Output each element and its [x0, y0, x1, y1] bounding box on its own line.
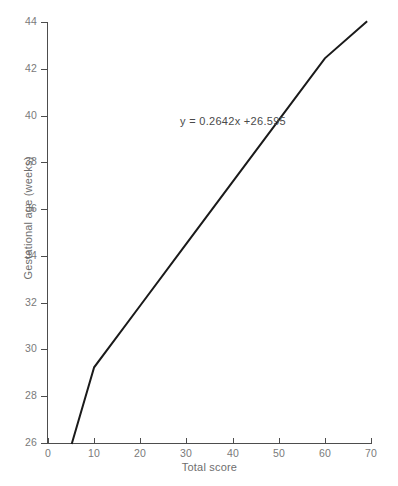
regression-line-path: [72, 22, 366, 443]
y-axis-tick: [41, 349, 47, 350]
y-axis-tick: [41, 209, 47, 210]
x-axis-tick-label: 60: [305, 447, 345, 459]
y-axis-tick: [41, 22, 47, 23]
plot-area: [48, 22, 371, 443]
regression-equation-label: y = 0.2642x +26.595: [180, 115, 286, 127]
regression-line-svg: [48, 22, 371, 443]
x-axis-title: Total score: [48, 461, 371, 473]
y-axis-title: Gestational age (weeks): [22, 118, 34, 318]
x-axis-tick-label: 40: [213, 447, 253, 459]
y-axis-tick: [41, 69, 47, 70]
y-axis-tick-label: 28: [0, 389, 37, 401]
y-axis-tick-label: 42: [0, 62, 37, 74]
x-axis-tick-label: 0: [28, 447, 68, 459]
y-axis-tick: [41, 396, 47, 397]
x-axis-tick-label: 20: [120, 447, 160, 459]
x-axis-line: [48, 443, 372, 444]
y-axis-tick-label: 30: [0, 342, 37, 354]
chart-figure: 26283032343638404244010203040506070 y = …: [0, 0, 398, 486]
y-axis-tick: [41, 303, 47, 304]
y-axis-tick: [41, 162, 47, 163]
x-axis-tick-label: 30: [166, 447, 206, 459]
x-axis-tick: [371, 438, 372, 444]
y-axis-tick: [41, 116, 47, 117]
y-axis-tick-label: 44: [0, 15, 37, 27]
y-axis-tick: [41, 443, 47, 444]
x-axis-tick-label: 50: [259, 447, 299, 459]
y-axis-tick: [41, 256, 47, 257]
x-axis-tick-label: 10: [74, 447, 114, 459]
x-axis-tick-label: 70: [351, 447, 391, 459]
